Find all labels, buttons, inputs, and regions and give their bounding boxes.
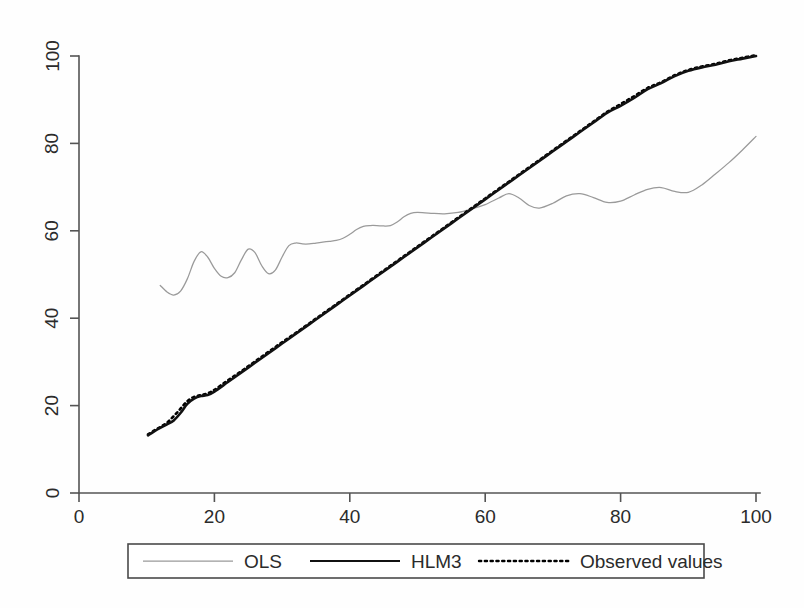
x-tick-label-20: 20 [204, 506, 225, 527]
y-tick-label-80: 80 [42, 133, 63, 154]
y-tick-label-0: 0 [42, 488, 63, 499]
x-tick-label-80: 80 [610, 506, 631, 527]
x-tick-label-100: 100 [740, 506, 772, 527]
chart-figure: 0 20 40 60 80 100 0 20 40 [0, 0, 804, 608]
y-tick-label-40: 40 [42, 308, 63, 329]
y-tick-label-100: 100 [42, 40, 63, 72]
x-tick-label-60: 60 [475, 506, 496, 527]
legend-label-ols: OLS [244, 551, 282, 572]
y-tick-label-20: 20 [42, 395, 63, 416]
chart-background [0, 0, 804, 608]
x-tick-label-40: 40 [339, 506, 360, 527]
legend-label-hlm3: HLM3 [411, 551, 462, 572]
x-tick-label-0: 0 [74, 506, 85, 527]
y-tick-label-60: 60 [42, 220, 63, 241]
chart-legend: OLS HLM3 Observed values [128, 544, 723, 578]
line-chart-svg: 0 20 40 60 80 100 0 20 40 [0, 0, 804, 608]
legend-label-observed-values: Observed values [580, 551, 723, 572]
